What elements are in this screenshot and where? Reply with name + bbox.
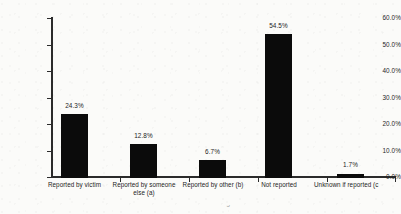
- bar-value-label: 6.7%: [190, 149, 235, 155]
- bar-value-label: 1.7%: [328, 162, 373, 168]
- y-tick-label: 50.0%: [357, 42, 401, 48]
- y-tick-mark: [47, 98, 52, 99]
- y-tick-mark: [47, 151, 52, 152]
- y-tick-mark: [47, 45, 52, 46]
- bar-reported-by-someone-else: [130, 144, 157, 178]
- bar-value-label: 54.5%: [256, 23, 301, 29]
- bar-value-label: 12.8%: [121, 133, 166, 139]
- x-category-label-not-reported: Not reported: [248, 181, 310, 189]
- clipped-footnote: and the second line of text is cut off b…: [0, 205, 401, 214]
- x-category-label-reported-by-victim: Reported by victim: [38, 181, 111, 189]
- y-tick-label: 60.0%: [357, 15, 401, 21]
- chart-figure: 60.0% 50.0% 40.0% 30.0% 20.0% 10.0% 0.0%…: [0, 0, 401, 214]
- y-tick-label: 20.0%: [357, 121, 401, 127]
- bar-reported-by-other: [199, 160, 226, 178]
- bar-unknown-if-reported: [337, 174, 364, 179]
- clipped-footnote-text: and the second line of text is cut off b…: [18, 205, 388, 206]
- y-tick-mark: [47, 71, 52, 72]
- bar-reported-by-victim: [61, 114, 88, 178]
- y-tick-mark: [47, 177, 52, 178]
- bar-not-reported: [265, 34, 292, 178]
- bar-value-label: 24.3%: [52, 103, 97, 109]
- y-tick-mark: [47, 124, 52, 125]
- y-tick-label: 10.0%: [357, 148, 401, 154]
- y-tick-label: 40.0%: [357, 68, 401, 74]
- x-category-label-reported-by-other: Reported by other (b): [177, 181, 249, 189]
- x-category-label-reported-by-someone-else: Reported by someone else (a): [112, 181, 176, 196]
- y-tick-label: 30.0%: [357, 95, 401, 101]
- y-tick-mark: [47, 18, 52, 19]
- plot-area: 60.0% 50.0% 40.0% 30.0% 20.0% 10.0% 0.0%…: [0, 0, 401, 214]
- x-category-label-unknown-if-reported: Unknown if reported (c: [314, 181, 401, 189]
